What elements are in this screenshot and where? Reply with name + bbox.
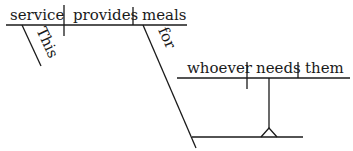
diagram-svg: service provides meals This for whoever … [0, 0, 353, 151]
word-verb: provides [73, 6, 138, 24]
sentence-diagram: service provides meals This for whoever … [0, 0, 353, 151]
pedestal-triangle [261, 128, 277, 137]
word-subject: service [10, 6, 64, 24]
word-preposition: for [154, 24, 180, 52]
word-clause-verb: needs [256, 59, 301, 77]
word-modifier: This [32, 24, 62, 61]
word-clause-object: them [305, 59, 344, 77]
word-clause-subject: whoever [187, 59, 253, 77]
word-direct-object: meals [142, 6, 187, 24]
